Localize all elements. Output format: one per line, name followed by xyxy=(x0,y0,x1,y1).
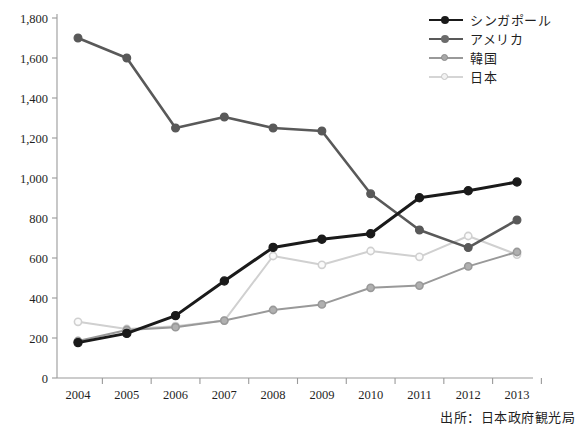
x-axis-ticks: 2004200520062007200820092010201120122013 xyxy=(66,378,542,402)
legend-label: 韓国 xyxy=(470,48,497,67)
y-axis-ticks: 02004006008001,0001,2001,4001,6001,800 xyxy=(20,12,57,386)
chart-legend: シンガポール アメリカ 韓国 日本 xyxy=(429,10,577,86)
legend-item-korea[interactable]: 韓国 xyxy=(429,48,577,67)
x-axis-tick-label: 2008 xyxy=(261,388,286,402)
y-axis-tick-label: 1,400 xyxy=(20,92,48,106)
x-axis-tick-label: 2007 xyxy=(212,388,237,402)
legend-swatch-icon xyxy=(429,70,463,84)
chart-series xyxy=(74,248,520,344)
y-axis-tick-label: 800 xyxy=(29,212,48,226)
chart-series xyxy=(74,232,520,332)
x-axis-tick-label: 2012 xyxy=(456,388,481,402)
y-axis-tick-label: 1,200 xyxy=(20,132,48,146)
legend-label: シンガポール xyxy=(470,10,551,29)
y-axis-tick-label: 0 xyxy=(42,372,48,386)
legend-swatch-icon xyxy=(429,32,463,46)
y-axis-tick-label: 200 xyxy=(29,332,48,346)
legend-label: 日本 xyxy=(470,67,497,86)
y-axis-tick-label: 600 xyxy=(29,252,48,266)
y-axis-tick-label: 1,800 xyxy=(20,12,48,26)
line-chart: 02004006008001,0001,2001,4001,6001,800 2… xyxy=(0,0,585,432)
legend-swatch-icon xyxy=(429,13,463,27)
legend-swatch-icon xyxy=(429,51,463,65)
y-axis-tick-label: 1,600 xyxy=(20,52,48,66)
y-axis-tick-label: 400 xyxy=(29,292,48,306)
x-axis-tick-label: 2010 xyxy=(358,388,383,402)
x-axis-tick-label: 2013 xyxy=(505,388,530,402)
chart-series xyxy=(74,178,521,347)
x-axis-tick-label: 2009 xyxy=(309,388,334,402)
source-note: 出所：日本政府観光局 xyxy=(440,407,575,426)
x-axis-tick-label: 2006 xyxy=(163,388,188,402)
x-axis-tick-label: 2005 xyxy=(114,388,139,402)
legend-item-japan[interactable]: 日本 xyxy=(429,67,577,86)
x-axis-tick-label: 2011 xyxy=(407,388,432,402)
legend-item-america[interactable]: アメリカ xyxy=(429,29,577,48)
legend-item-singapore[interactable]: シンガポール xyxy=(429,10,577,29)
legend-label: アメリカ xyxy=(470,29,523,48)
x-axis-tick-label: 2004 xyxy=(66,388,92,402)
y-axis-tick-label: 1,000 xyxy=(20,172,48,186)
